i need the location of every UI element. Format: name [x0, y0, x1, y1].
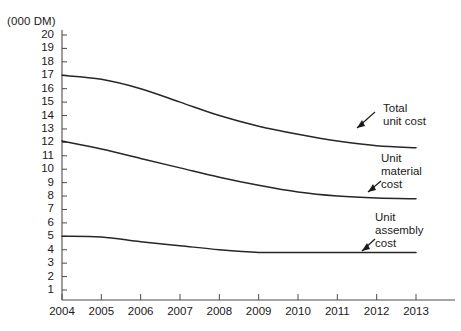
- x-tick-label: 2013: [394, 305, 438, 317]
- y-tick-label: 4: [32, 244, 54, 256]
- x-tick-label: 2011: [315, 305, 359, 317]
- y-tick-label: 2: [32, 271, 54, 283]
- x-tick-label: 2004: [40, 305, 84, 317]
- y-tick-label: 3: [32, 257, 54, 269]
- y-tick-label: 1: [32, 284, 54, 296]
- x-tick-label: 2009: [237, 305, 281, 317]
- x-axis-ticks: [62, 294, 416, 300]
- x-tick-label: 2005: [79, 305, 123, 317]
- annotation-unit-assembly-cost: Unit assembly cost: [375, 211, 424, 251]
- y-tick-label: 16: [32, 83, 54, 95]
- series-line-unit-material-cost: [62, 141, 416, 199]
- y-tick-label: 18: [32, 56, 54, 68]
- y-tick-label: 20: [32, 29, 54, 41]
- annotation-unit-material-cost: Unit material cost: [381, 152, 422, 192]
- y-tick-label: 6: [32, 217, 54, 229]
- y-tick-label: 15: [32, 96, 54, 108]
- cost-trend-chart: (000 DM) 2019181716151413121110987654321…: [0, 0, 461, 331]
- y-tick-label: 5: [32, 230, 54, 242]
- y-axis-ticks: [62, 35, 67, 290]
- y-tick-label: 10: [32, 163, 54, 175]
- y-tick-label: 12: [32, 136, 54, 148]
- arrow-unit-material-cost-head: [368, 184, 376, 192]
- annotation-total-unit-cost: Total unit cost: [383, 102, 426, 128]
- y-tick-label: 17: [32, 69, 54, 81]
- x-tick-label: 2012: [355, 305, 399, 317]
- y-tick-label: 9: [32, 177, 54, 189]
- x-tick-label: 2006: [119, 305, 163, 317]
- x-tick-label: 2007: [158, 305, 202, 317]
- y-tick-label: 19: [32, 42, 54, 54]
- y-tick-label: 11: [32, 150, 54, 162]
- x-tick-label: 2008: [197, 305, 241, 317]
- series-line-total-unit-cost: [62, 75, 416, 147]
- x-tick-label: 2010: [276, 305, 320, 317]
- series-lines: [62, 75, 416, 252]
- y-tick-label: 8: [32, 190, 54, 202]
- y-tick-label: 14: [32, 110, 54, 122]
- y-tick-label: 13: [32, 123, 54, 135]
- y-tick-label: 7: [32, 203, 54, 215]
